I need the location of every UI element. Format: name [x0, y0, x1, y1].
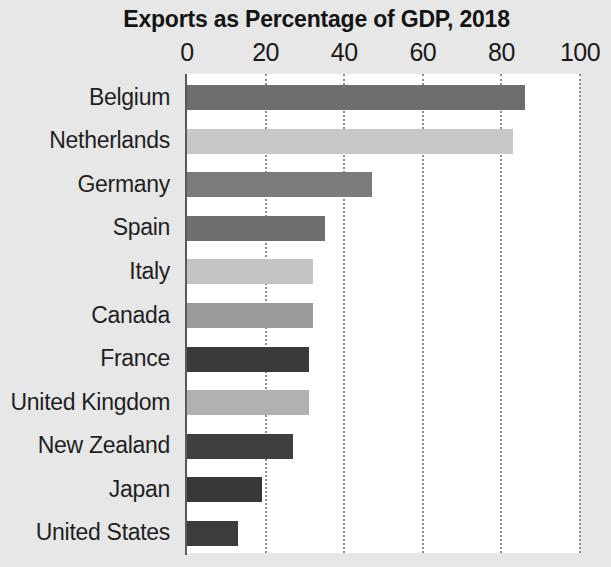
x-tick-label-40: 40: [331, 38, 358, 67]
y-label-germany: Germany: [0, 171, 179, 198]
x-axis-tick-labels: 020406080100: [0, 38, 611, 70]
bar-belgium: [187, 85, 525, 110]
y-label-italy: Italy: [0, 258, 179, 285]
y-label-japan: Japan: [0, 476, 179, 503]
bar-italy: [187, 259, 313, 284]
y-label-spain: Spain: [0, 214, 179, 241]
bar-canada: [187, 303, 313, 328]
gridline-100: [579, 74, 581, 553]
y-label-belgium: Belgium: [0, 84, 179, 111]
bar-germany: [187, 172, 372, 197]
chart-title: Exports as Percentage of GDP, 2018: [0, 6, 611, 33]
bar-united-kingdom: [187, 390, 309, 415]
y-axis-line: [185, 74, 187, 555]
bar-united-states: [187, 521, 238, 546]
y-label-netherlands: Netherlands: [0, 127, 179, 154]
plot-area: [187, 74, 580, 553]
bar-new-zealand: [187, 434, 293, 459]
x-tick-label-0: 0: [180, 38, 193, 67]
y-label-united-states: United States: [0, 519, 179, 546]
y-axis-category-labels: BelgiumNetherlandsGermanySpainItalyCanad…: [0, 74, 179, 553]
bar-japan: [187, 477, 262, 502]
bar-spain: [187, 216, 325, 241]
x-tick-label-100: 100: [560, 38, 600, 67]
y-label-new-zealand: New Zealand: [0, 432, 179, 459]
x-tick-label-60: 60: [409, 38, 436, 67]
bar-chart: Exports as Percentage of GDP, 2018 02040…: [0, 0, 611, 567]
x-tick-label-20: 20: [252, 38, 279, 67]
y-label-france: France: [0, 345, 179, 372]
bar-france: [187, 347, 309, 372]
y-label-united-kingdom: United Kingdom: [0, 389, 179, 416]
bar-netherlands: [187, 129, 513, 154]
x-tick-label-80: 80: [488, 38, 515, 67]
y-label-canada: Canada: [0, 302, 179, 329]
